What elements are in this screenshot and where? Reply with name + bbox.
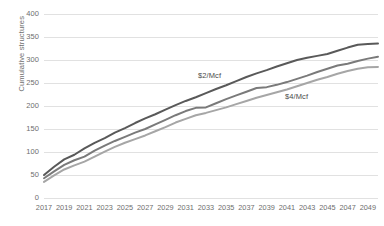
series-label: $2/Mcf <box>198 72 221 80</box>
series-line <box>44 67 378 182</box>
series-line <box>44 43 378 175</box>
line-chart: Cumulative structures 400350300250200150… <box>0 0 384 226</box>
series-lines <box>44 43 378 181</box>
plot-area <box>0 0 384 226</box>
series-label: $4/Mcf <box>285 93 308 101</box>
